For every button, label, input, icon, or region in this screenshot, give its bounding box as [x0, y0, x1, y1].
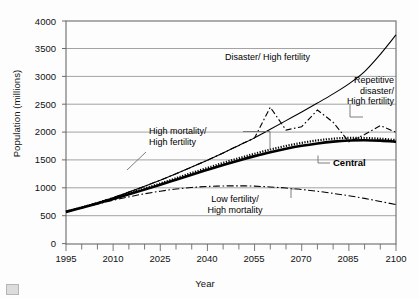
ytick-2000: 2000 — [16, 126, 56, 137]
label-repetitive-line2: disaster/ — [304, 86, 394, 97]
label-disaster-high-fertility: Disaster/ High fertility — [225, 52, 310, 63]
population-projection-figure: 0 500 1000 1500 2000 2500 3000 3500 4000… — [0, 0, 419, 298]
label-repetitive-line1: Repetitive — [304, 75, 394, 86]
label-high-mortality-line2: High fertility — [149, 137, 196, 148]
x-axis-title: Year — [165, 278, 245, 289]
label-high-mortality-line1: High mortality/ — [149, 126, 207, 137]
label-central: Central — [333, 158, 366, 169]
xtick-2055: 2055 — [234, 253, 274, 264]
ytick-3500: 3500 — [16, 43, 56, 54]
label-low-fertility-line1: Low fertility/ — [180, 194, 290, 205]
xtick-2085: 2085 — [328, 253, 368, 264]
xtick-2070: 2070 — [281, 253, 321, 264]
x-axis-minor-ticks — [66, 244, 396, 251]
ytick-3000: 3000 — [16, 71, 56, 82]
ytick-1500: 1500 — [16, 154, 56, 165]
label-repetitive-line3: High fertility — [304, 96, 394, 107]
figure-corner-mark — [6, 284, 19, 295]
xtick-2040: 2040 — [187, 253, 227, 264]
y-axis-title: Population (millions) — [11, 54, 22, 174]
y-axis-ticks — [62, 21, 66, 244]
xtick-1995: 1995 — [46, 253, 86, 264]
ytick-2500: 2500 — [16, 99, 56, 110]
xtick-2010: 2010 — [93, 253, 133, 264]
label-low-fertility-line2: High mortality — [180, 205, 290, 216]
xtick-2100: 2100 — [376, 253, 416, 264]
ytick-4000: 4000 — [16, 16, 56, 27]
xtick-2025: 2025 — [140, 253, 180, 264]
ytick-0: 0 — [16, 238, 56, 249]
ytick-1000: 1000 — [16, 182, 56, 193]
ytick-500: 500 — [16, 210, 56, 221]
